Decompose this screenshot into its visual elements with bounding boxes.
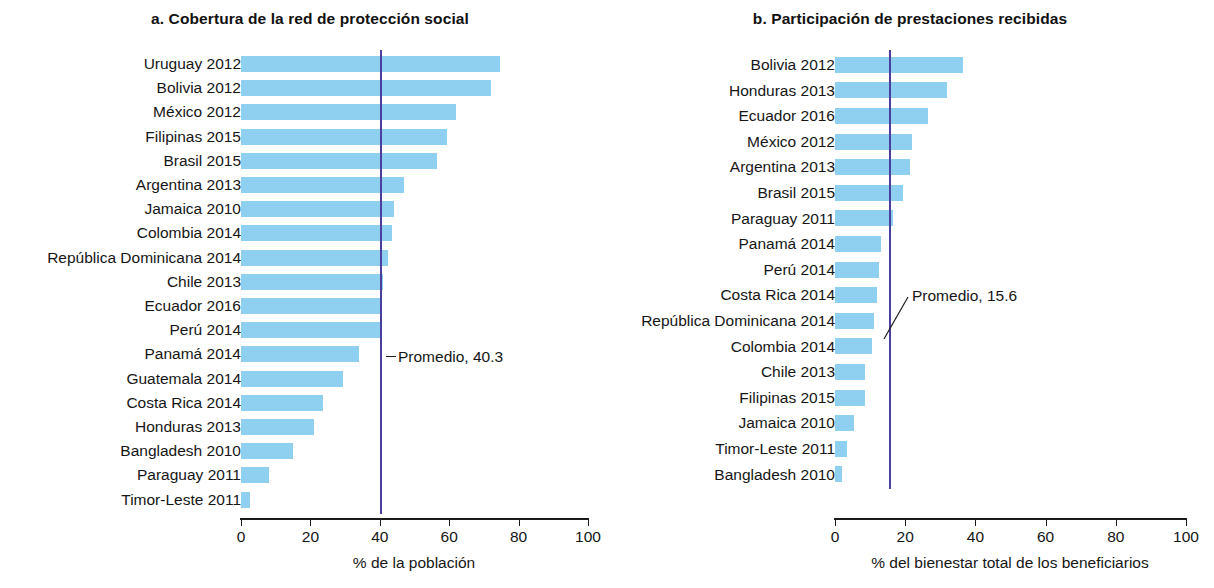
x-axis-tick-label: 100	[575, 528, 601, 546]
bar	[835, 108, 928, 124]
bar	[241, 419, 314, 435]
table-row: Honduras 2013	[620, 78, 1214, 104]
bar	[835, 364, 865, 380]
category-label: Bangladesh 2010	[620, 462, 842, 488]
table-row: México 2012	[620, 129, 1214, 155]
average-leader-line	[872, 295, 912, 345]
bar	[241, 104, 456, 120]
x-axis-caption: % de la población	[353, 554, 475, 572]
panel-a-title: a. Cobertura de la red de protección soc…	[12, 10, 608, 28]
bar	[241, 153, 437, 169]
category-label: Brasil 2015	[620, 180, 842, 206]
category-label: Costa Rica 2014	[0, 391, 248, 415]
category-label: Guatemala 2014	[0, 367, 248, 391]
table-row: Bangladesh 2010	[0, 439, 620, 463]
table-row: Chile 2013	[0, 270, 620, 294]
table-row: Filipinas 2015	[620, 385, 1214, 411]
bar	[835, 134, 912, 150]
x-axis-tick-label: 100	[1173, 528, 1199, 546]
average-line	[889, 50, 891, 489]
category-label: Brasil 2015	[0, 149, 248, 173]
table-row: Bangladesh 2010	[620, 462, 1214, 488]
x-axis-tick-label: 40	[967, 528, 984, 546]
x-axis-tick-label: 60	[1037, 528, 1054, 546]
x-axis-tick	[380, 520, 381, 526]
bar	[241, 371, 343, 387]
table-row: Jamaica 2010	[0, 197, 620, 221]
bar	[835, 415, 854, 431]
category-label: Jamaica 2010	[620, 410, 842, 436]
x-axis-tick	[519, 520, 520, 526]
x-axis-tick	[588, 520, 589, 526]
category-label: Bangladesh 2010	[0, 439, 248, 463]
bar	[241, 225, 392, 241]
category-label: Argentina 2013	[0, 173, 248, 197]
category-label: Bolivia 2012	[0, 76, 248, 100]
bar	[241, 467, 269, 483]
category-label: Uruguay 2012	[0, 52, 248, 76]
bar	[835, 313, 874, 329]
category-label: México 2012	[620, 129, 842, 155]
table-row: Timor-Leste 2011	[620, 436, 1214, 462]
chart-panel-a: a. Cobertura de la red de protección soc…	[0, 0, 620, 588]
bar	[241, 395, 323, 411]
table-row: Bolivia 2012	[0, 76, 620, 100]
table-row: Argentina 2013	[620, 154, 1214, 180]
category-label: Jamaica 2010	[0, 197, 248, 221]
table-row: Jamaica 2010	[620, 410, 1214, 436]
bar	[241, 250, 388, 266]
category-label: Panamá 2014	[0, 342, 248, 366]
x-axis-tick	[905, 520, 906, 526]
category-label: República Dominicana 2014	[0, 246, 248, 270]
category-label: México 2012	[0, 100, 248, 124]
average-leader-line	[386, 356, 396, 357]
x-axis-tick-label: 20	[897, 528, 914, 546]
table-row: Argentina 2013	[0, 173, 620, 197]
x-axis-tick	[449, 520, 450, 526]
x-axis-tick-label: 20	[302, 528, 319, 546]
x-axis-tick	[835, 520, 836, 526]
average-line	[380, 50, 382, 514]
bar	[241, 298, 382, 314]
bar	[241, 274, 383, 290]
bar	[835, 57, 963, 73]
bar	[241, 201, 394, 217]
bar	[835, 262, 879, 278]
table-row: Panamá 2014	[620, 231, 1214, 257]
bar	[241, 56, 500, 72]
category-label: Paraguay 2011	[0, 463, 248, 487]
table-row: Perú 2014	[0, 318, 620, 342]
x-axis-tick	[1046, 520, 1047, 526]
bar	[835, 390, 865, 406]
bar	[835, 441, 847, 457]
table-row: Brasil 2015	[620, 180, 1214, 206]
table-row: Panamá 2014	[0, 342, 620, 366]
table-row: Ecuador 2016	[620, 103, 1214, 129]
x-axis-line	[240, 518, 589, 520]
x-axis-tick	[310, 520, 311, 526]
table-row: Honduras 2013	[0, 415, 620, 439]
x-axis-tick	[241, 520, 242, 526]
bar	[835, 236, 881, 252]
bar	[241, 492, 250, 508]
bar	[241, 346, 359, 362]
bar	[835, 210, 893, 226]
bar	[835, 82, 947, 98]
category-label: Perú 2014	[0, 318, 248, 342]
table-row: Paraguay 2011	[620, 206, 1214, 232]
x-axis-tick	[1116, 520, 1117, 526]
bar	[835, 159, 910, 175]
table-row: México 2012	[0, 100, 620, 124]
category-label: Honduras 2013	[0, 415, 248, 439]
category-label: Timor-Leste 2011	[0, 488, 248, 512]
category-label: Colombia 2014	[620, 334, 842, 360]
x-axis-caption: % del bienestar total de los beneficiari…	[871, 554, 1148, 572]
category-label: Bolivia 2012	[620, 52, 842, 78]
table-row: Ecuador 2016	[0, 294, 620, 318]
category-label: Honduras 2013	[620, 78, 842, 104]
panel-b-plot-area: Bolivia 2012Honduras 2013Ecuador 2016Méx…	[620, 46, 1214, 536]
bar	[241, 129, 447, 145]
average-label: Promedio, 15.6	[912, 287, 1017, 305]
panel-b-title: b. Participación de prestaciones recibid…	[620, 10, 1200, 28]
x-axis-tick-label: 0	[237, 528, 246, 546]
